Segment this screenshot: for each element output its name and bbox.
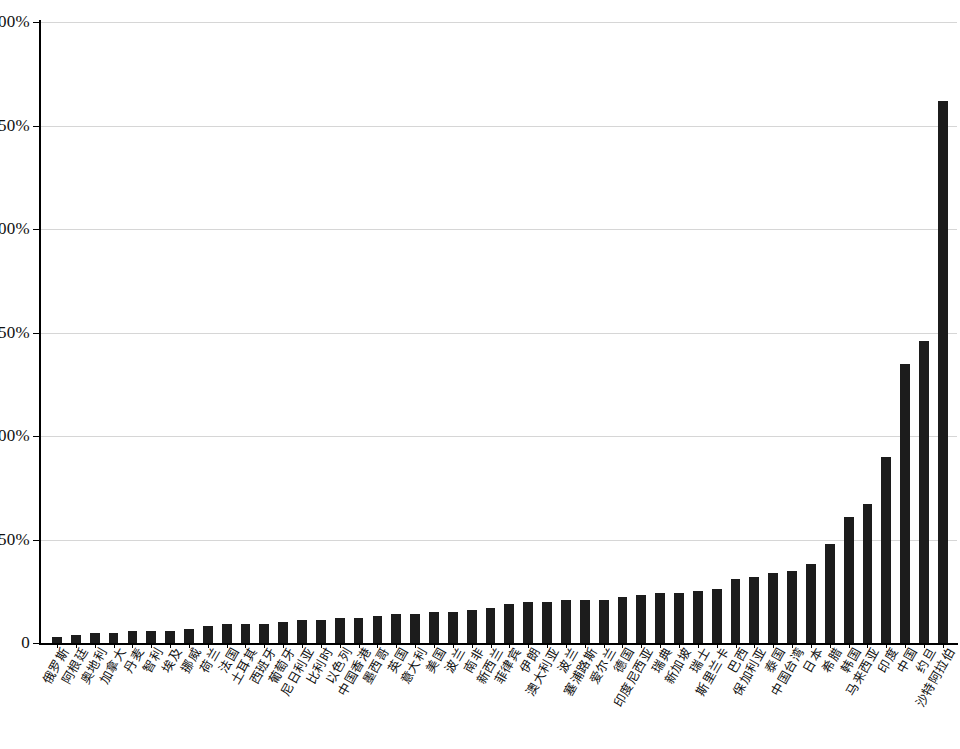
bar-chart: 050%100%150%200%250%300% 俄罗斯阿根廷奥地利加拿大丹麦智… (0, 0, 960, 749)
bar (863, 504, 873, 643)
bar (938, 101, 948, 643)
y-axis-tickmark (33, 436, 40, 437)
bar (900, 364, 910, 643)
y-axis-tickmark (33, 126, 40, 127)
y-axis-tickmark (33, 643, 40, 644)
y-axis-tickmark (33, 540, 40, 541)
x-axis-category-labels: 俄罗斯阿根廷奥地利加拿大丹麦智利埃及挪威荷兰法国土耳其西班牙葡萄牙尼日利亚比利时… (0, 646, 960, 749)
bar (919, 341, 929, 643)
bars-group (41, 22, 957, 643)
y-axis-tickmark (33, 333, 40, 334)
y-axis-tickmark (33, 229, 40, 230)
y-axis-tickmark (33, 22, 40, 23)
